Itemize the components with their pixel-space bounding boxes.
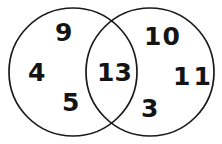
right-only-value-11: 11: [173, 64, 214, 89]
right-only-value-10: 10: [144, 24, 181, 49]
right-only-value-3: 3: [141, 96, 159, 121]
left-only-value-4: 4: [28, 60, 46, 85]
venn-diagram: 9 4 5 13 10 11 3: [0, 0, 222, 144]
left-only-value-9: 9: [55, 20, 73, 45]
left-only-value-5: 5: [62, 90, 80, 115]
intersection-value-13: 13: [97, 60, 132, 85]
